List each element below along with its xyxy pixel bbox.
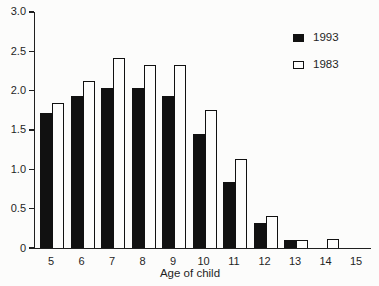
bar-1983-age-11 — [235, 159, 247, 248]
legend: 19931983 — [293, 33, 339, 87]
y-tick-mark-1.0 — [29, 169, 34, 170]
legend-item-1993: 1993 — [293, 33, 339, 43]
x-axis-title: Age of child — [100, 267, 280, 279]
legend-item-1983: 1983 — [293, 60, 339, 70]
y-tick-mark-3.0 — [29, 11, 34, 12]
bar-1993-age-13 — [284, 240, 296, 248]
bar-1993-age-12 — [254, 223, 266, 248]
legend-label-1983: 1983 — [313, 59, 339, 71]
y-axis-line — [34, 12, 35, 249]
y-tick-label-1.5: 1.5 — [2, 124, 26, 135]
x-tick-label-15: 15 — [344, 256, 368, 267]
y-tick-label-3.0: 3.0 — [2, 6, 26, 17]
x-tick-label-11: 11 — [222, 256, 246, 267]
bar-1983-age-6 — [83, 81, 95, 248]
bar-1983-age-14 — [327, 239, 339, 248]
bar-1983-age-7 — [113, 58, 125, 248]
x-tick-label-9: 9 — [161, 256, 185, 267]
y-tick-label-2.0: 2.0 — [2, 85, 26, 96]
legend-label-1993: 1993 — [313, 32, 339, 44]
bar-1983-age-9 — [174, 65, 186, 248]
x-tick-label-5: 5 — [39, 256, 63, 267]
bar-chart-figure: 00.51.01.52.02.53.0 56789101112131415 Ag… — [0, 0, 379, 286]
bar-1993-age-7 — [101, 88, 113, 248]
x-tick-label-14: 14 — [314, 256, 338, 267]
y-tick-mark-0 — [29, 247, 34, 248]
x-tick-label-13: 13 — [283, 256, 307, 267]
bar-1993-age-6 — [71, 96, 83, 248]
legend-swatch-1983 — [293, 61, 304, 69]
bar-1993-age-8 — [132, 88, 144, 248]
y-tick-mark-2.5 — [29, 51, 34, 52]
bar-1993-age-11 — [223, 182, 235, 248]
bar-1983-age-10 — [205, 110, 217, 248]
legend-swatch-1993 — [293, 34, 304, 42]
bar-1993-age-5 — [40, 113, 52, 248]
y-tick-mark-0.5 — [29, 208, 34, 209]
x-axis-line — [34, 248, 371, 249]
x-tick-label-7: 7 — [100, 256, 124, 267]
x-tick-label-12: 12 — [253, 256, 277, 267]
y-tick-label-0: 0 — [2, 243, 26, 254]
y-tick-label-1.0: 1.0 — [2, 164, 26, 175]
bar-1983-age-8 — [144, 65, 156, 248]
bar-1983-age-5 — [52, 103, 64, 248]
bar-1993-age-9 — [162, 96, 174, 248]
x-tick-label-8: 8 — [131, 256, 155, 267]
bar-1983-age-13 — [296, 240, 308, 248]
x-tick-label-6: 6 — [70, 256, 94, 267]
x-tick-label-10: 10 — [192, 256, 216, 267]
y-tick-label-0.5: 0.5 — [2, 203, 26, 214]
y-tick-mark-2.0 — [29, 90, 34, 91]
y-tick-mark-1.5 — [29, 129, 34, 130]
bar-1983-age-12 — [266, 216, 278, 248]
y-tick-label-2.5: 2.5 — [2, 46, 26, 57]
bar-1993-age-10 — [193, 134, 205, 248]
